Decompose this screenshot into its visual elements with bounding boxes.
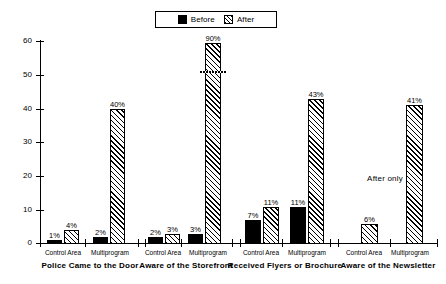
bar-value-storefront-control-before: 2%: [150, 229, 161, 237]
sub-label-flyers-multi: Multiprogram: [288, 249, 326, 257]
y-tick-20: 20: [36, 176, 44, 177]
bar-storefront-multi-after: 90%: [205, 43, 221, 244]
y-tick-40: 40: [36, 109, 44, 110]
y-tick-label-20: 20: [23, 171, 32, 180]
legend-swatch-before-icon: [178, 15, 187, 24]
y-tick-30: 30: [36, 142, 44, 143]
bar-flyers-multi-before: 11%: [290, 207, 306, 244]
sub-label-storefront-multi: Multiprogram: [189, 249, 227, 257]
bar-value-police-control-before: 1%: [49, 232, 60, 240]
bar-police-multi-after: 40%: [110, 109, 125, 244]
y-tick-label-40: 40: [23, 104, 32, 113]
y-tick-label-30: 30: [23, 137, 32, 146]
y-tick-label-60: 60: [23, 36, 32, 45]
x-tick-4: [181, 239, 182, 247]
group-label-police: Police Came to the Door: [41, 261, 138, 271]
bar-flyers-multi-after: 43%: [308, 99, 324, 244]
bar-value-police-multi-after: 40%: [110, 101, 125, 109]
bar-flyers-control-after: 11%: [263, 207, 279, 244]
bar-value-flyers-multi-before: 11%: [291, 199, 305, 207]
sub-label-flyers-control: Control Area: [243, 249, 279, 257]
sub-label-police-multi: Multiprogram: [91, 249, 129, 257]
bar-chart: Before After 60 50 40 30 20 10 0: [0, 0, 446, 284]
bar-police-control-after: 4%: [64, 230, 79, 244]
y-tick-label-10: 10: [23, 205, 32, 214]
sub-label-police-control: Control Area: [45, 249, 81, 257]
x-tick-0: [40, 239, 41, 247]
bar-value-storefront-multi-after: 90%: [205, 35, 220, 43]
legend-label-before: Before: [191, 15, 215, 24]
y-tick-50: 50: [36, 75, 44, 76]
group-label-flyers: Received Flyers or Brochure: [228, 261, 342, 271]
legend-entry-before: Before: [178, 15, 215, 24]
legend-swatch-after-icon: [224, 15, 233, 24]
x-tick-7: [282, 239, 283, 247]
x-tick-10: [390, 239, 391, 247]
bar-storefront-control-after: 3%: [165, 234, 180, 244]
bar-value-police-control-after: 4%: [66, 222, 77, 230]
x-tick-6: [240, 239, 241, 247]
legend-entry-after: After: [224, 15, 254, 24]
bar-value-police-multi-before: 2%: [95, 229, 106, 237]
x-tick-9: [338, 239, 339, 247]
sub-label-newsletter-control: Control Area: [346, 249, 382, 257]
bar-value-storefront-control-after: 3%: [167, 226, 178, 234]
bar-police-control-before: 1%: [47, 240, 62, 244]
sub-label-newsletter-multi: Multiprogram: [391, 249, 429, 257]
axis-break-marker: [200, 71, 226, 73]
x-tick-5: [232, 239, 233, 247]
bar-value-newsletter-control-after: 6%: [364, 216, 375, 224]
bar-police-multi-before: 2%: [93, 237, 108, 244]
after-only-annotation: After only: [367, 174, 403, 184]
x-tick-1: [85, 239, 86, 247]
sub-label-storefront-control: Control Area: [145, 249, 181, 257]
bar-newsletter-multi-after: 41%: [406, 105, 423, 244]
group-label-storefront: Aware of the Storefront: [139, 261, 232, 271]
x-tick-3: [145, 239, 146, 247]
bar-storefront-multi-before: 3%: [188, 234, 203, 244]
bar-flyers-control-before: 7%: [245, 220, 261, 244]
bar-value-storefront-multi-before: 3%: [190, 226, 201, 234]
x-tick-8: [330, 239, 331, 247]
bar-value-flyers-multi-after: 43%: [308, 91, 323, 99]
legend-label-after: After: [237, 15, 254, 24]
y-tick-60: 60: [36, 41, 44, 42]
bar-value-flyers-control-before: 7%: [248, 212, 259, 220]
bar-value-newsletter-multi-after: 41%: [407, 97, 422, 105]
chart-legend: Before After: [155, 11, 277, 28]
x-tick-2: [138, 239, 139, 247]
bar-storefront-control-before: 2%: [148, 237, 163, 244]
group-label-newsletter: Aware of the Newsletter: [340, 261, 435, 271]
bar-newsletter-control-after: 6%: [361, 224, 378, 244]
y-tick-label-0: 0: [28, 238, 32, 247]
y-tick-10: 10: [36, 210, 44, 211]
bar-value-flyers-control-after: 11%: [264, 199, 278, 207]
x-tick-11: [437, 239, 438, 247]
y-tick-label-50: 50: [23, 70, 32, 79]
